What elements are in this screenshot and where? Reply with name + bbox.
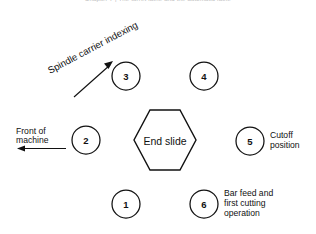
bar-feed-label-line-2: first cutting bbox=[224, 198, 266, 208]
bar-feed-label-line-3: operation bbox=[224, 208, 260, 218]
station-4-number: 4 bbox=[201, 71, 207, 82]
station-layout-diagram: End slide 1 2 3 4 5 6 bbox=[0, 0, 316, 234]
station-3[interactable]: 3 bbox=[112, 62, 140, 90]
bar-feed-label-line-1: Bar feed and bbox=[224, 188, 273, 198]
spindle-carrier-indexing-label: Spindle carrier indexing bbox=[46, 19, 140, 76]
front-of-machine-label-line-2: machine bbox=[16, 135, 49, 145]
indexing-arrow-head-icon bbox=[104, 61, 113, 69]
station-4[interactable]: 4 bbox=[190, 62, 218, 90]
station-3-number: 3 bbox=[123, 71, 128, 82]
end-slide-label: End slide bbox=[143, 135, 186, 147]
front-of-machine-callout: Front of machine bbox=[16, 126, 66, 152]
station-1[interactable]: 1 bbox=[112, 190, 140, 218]
indexing-arrow-shaft bbox=[74, 65, 110, 97]
station-2-number: 2 bbox=[83, 135, 88, 146]
cutoff-position-callout: Cutoff position bbox=[270, 130, 300, 150]
station-2[interactable]: 2 bbox=[72, 126, 100, 154]
cutoff-position-label-line-1: Cutoff bbox=[270, 130, 293, 140]
station-5[interactable]: 5 bbox=[236, 127, 264, 155]
station-6-number: 6 bbox=[201, 199, 206, 210]
station-6[interactable]: 6 bbox=[190, 190, 218, 218]
station-1-number: 1 bbox=[123, 199, 129, 210]
end-slide-hexagon: End slide bbox=[134, 110, 196, 170]
front-of-machine-arrow-head-icon bbox=[17, 146, 25, 152]
bar-feed-callout: Bar feed and first cutting operation bbox=[224, 188, 273, 218]
station-5-number: 5 bbox=[247, 136, 253, 147]
cutoff-position-label-line-2: position bbox=[270, 140, 300, 150]
spindle-carrier-indexing-callout: Spindle carrier indexing bbox=[46, 19, 140, 97]
figure-page: Chapter 7 | The turret lathe and the aut… bbox=[0, 0, 316, 234]
